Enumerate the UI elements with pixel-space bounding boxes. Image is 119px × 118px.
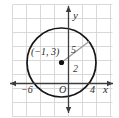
graph-canvas [0, 0, 119, 118]
y-axis-arrow-down [66, 107, 71, 113]
x-tick-label-4: 4 [90, 85, 95, 95]
y-axis-label: y [73, 10, 78, 21]
x-axis-label: x [103, 84, 108, 95]
radius-length-label: 5 [71, 45, 76, 55]
x-tick-label-neg6: −6 [21, 85, 33, 95]
origin-label: O [59, 85, 66, 95]
y-axis-arrow-up [66, 6, 71, 12]
vertical-offset-label: 2 [73, 64, 78, 74]
coordinate-plane-figure: y x O −6 4 (−1, 3) 5 2 [0, 0, 119, 118]
center-coordinate-label: (−1, 3) [31, 47, 59, 57]
center-point-marker [59, 60, 64, 65]
